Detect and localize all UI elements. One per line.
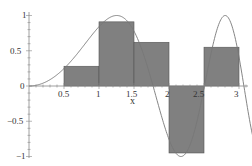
- bars: [64, 22, 239, 153]
- x-tick-3: 3: [234, 89, 239, 99]
- y-tick-neg-0-5: −0.5: [7, 116, 24, 126]
- y-tick-neg-1: −1: [16, 151, 26, 161]
- x-axis-title: x: [130, 95, 135, 106]
- x-tick-0-5: 0.5: [58, 89, 70, 99]
- y-tick-0: 0: [20, 81, 25, 91]
- bar-2: [99, 22, 134, 86]
- y-tick-1: 1: [22, 10, 27, 20]
- x-tick-2: 2: [165, 89, 170, 99]
- riemann-sum-chart: 0.5 1 1.5 2 2.5 3 x 1 0.5 0 −0.5 −1: [0, 0, 252, 166]
- bar-5: [204, 47, 239, 86]
- y-tick-0-5: 0.5: [10, 46, 22, 56]
- x-tick-1: 1: [96, 89, 101, 99]
- bar-1: [64, 66, 99, 86]
- x-tick-2-5: 2.5: [193, 89, 205, 99]
